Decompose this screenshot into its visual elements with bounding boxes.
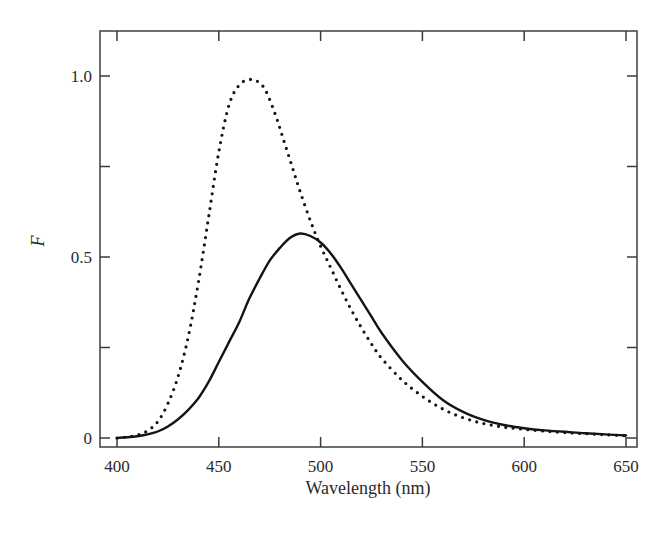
x-axis-label: Wavelength (nm) — [305, 478, 430, 499]
y-tick-label: 1.0 — [71, 67, 92, 86]
y-axis-ticks — [100, 76, 637, 438]
x-axis-ticks — [117, 31, 626, 447]
y-tick-label: 0 — [84, 429, 93, 448]
y-axis-tick-labels: 00.51.0 — [71, 67, 92, 448]
x-tick-label: 600 — [511, 457, 537, 476]
x-tick-label: 400 — [104, 457, 130, 476]
y-tick-label: 0.5 — [71, 248, 92, 267]
x-tick-label: 550 — [410, 457, 436, 476]
y-axis-label: F — [28, 235, 48, 248]
x-tick-label: 450 — [206, 457, 232, 476]
x-tick-label: 650 — [613, 457, 639, 476]
spectrum-chart: 400450500550600650 00.51.0 Wavelength (n… — [0, 0, 670, 536]
series-solid-curve — [117, 233, 626, 438]
series-dotted-curve — [117, 79, 626, 438]
plot-frame — [100, 31, 637, 447]
x-axis-tick-labels: 400450500550600650 — [104, 457, 639, 476]
x-tick-label: 500 — [308, 457, 334, 476]
